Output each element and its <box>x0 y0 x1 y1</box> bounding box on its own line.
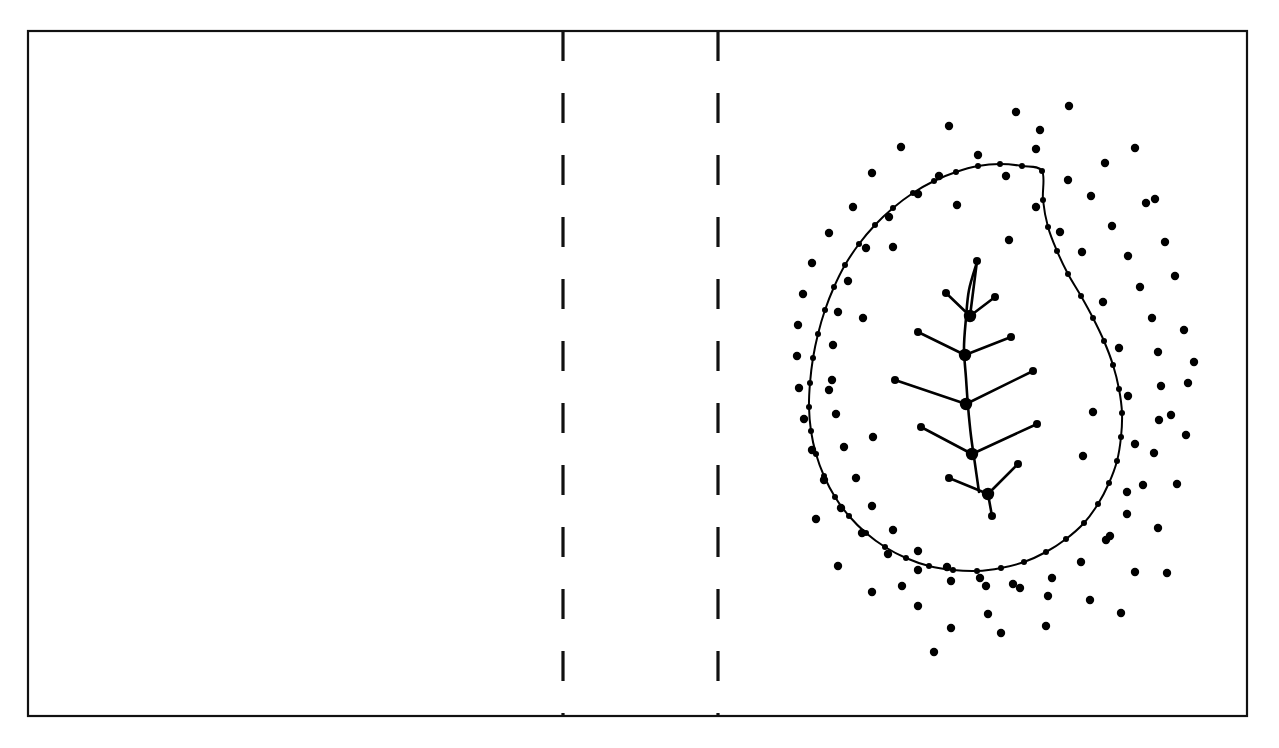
exterior-sample-point-83 <box>997 629 1005 637</box>
contour-sample-point-20 <box>832 494 838 500</box>
exterior-sample-point-62 <box>1077 558 1085 566</box>
exterior-sample-point-24 <box>799 290 807 298</box>
exterior-sample-point-99 <box>869 433 877 441</box>
exterior-sample-point-47 <box>1184 379 1192 387</box>
contour-sample-point-36 <box>1118 434 1124 440</box>
exterior-sample-point-12 <box>849 203 857 211</box>
contour-sample-point-10 <box>842 262 848 268</box>
exterior-sample-point-55 <box>1182 431 1190 439</box>
exterior-sample-point-59 <box>1131 440 1139 448</box>
exterior-sample-point-53 <box>868 502 876 510</box>
skeleton-tip-node-8 <box>1033 420 1041 428</box>
contour-sample-point-16 <box>806 404 812 410</box>
contour-sample-point-38 <box>1116 386 1122 392</box>
skeleton-tip-node-4 <box>1007 333 1015 341</box>
exterior-sample-point-71 <box>1154 524 1162 532</box>
contour-sample-point-9 <box>856 241 862 247</box>
skeleton-major-node-n4 <box>966 448 978 460</box>
contour-sample-point-19 <box>821 473 827 479</box>
exterior-sample-point-61 <box>914 547 922 555</box>
exterior-sample-point-75 <box>1106 532 1114 540</box>
contour-sample-point-25 <box>926 563 932 569</box>
exterior-sample-point-89 <box>1151 195 1159 203</box>
contour-sample-point-13 <box>815 331 821 337</box>
contour-sample-point-1 <box>1019 163 1025 169</box>
exterior-sample-point-19 <box>1032 203 1040 211</box>
exterior-sample-point-54 <box>1123 510 1131 518</box>
contour-sample-point-15 <box>807 380 813 386</box>
contour-sample-point-8 <box>872 222 878 228</box>
exterior-sample-point-66 <box>1048 574 1056 582</box>
exterior-sample-point-35 <box>1099 298 1107 306</box>
contour-sample-point-34 <box>1106 480 1112 486</box>
exterior-sample-point-100 <box>859 314 867 322</box>
figure-background <box>0 0 1279 748</box>
contour-sample-point-17 <box>808 428 814 434</box>
contour-sample-point-11 <box>831 284 837 290</box>
contour-sample-point-37 <box>1119 410 1125 416</box>
exterior-sample-point-1 <box>1065 102 1073 110</box>
exterior-sample-point-41 <box>832 410 840 418</box>
contour-sample-point-41 <box>1090 315 1096 321</box>
exterior-sample-point-30 <box>1148 314 1156 322</box>
exterior-sample-point-27 <box>1078 248 1086 256</box>
contour-sample-point-44 <box>1054 248 1060 254</box>
contour-sample-point-27 <box>974 568 980 574</box>
exterior-sample-point-39 <box>1180 326 1188 334</box>
exterior-sample-point-94 <box>825 386 833 394</box>
exterior-sample-point-2 <box>945 122 953 130</box>
leaf-figure-svg <box>0 0 1279 748</box>
contour-sample-point-28 <box>998 565 1004 571</box>
skeleton-tip-node-6 <box>1029 367 1037 375</box>
exterior-sample-point-4 <box>1131 144 1139 152</box>
exterior-sample-point-32 <box>793 352 801 360</box>
contour-sample-point-31 <box>1063 536 1069 542</box>
contour-sample-point-18 <box>813 451 819 457</box>
contour-sample-point-30 <box>1043 549 1049 555</box>
exterior-sample-point-49 <box>852 474 860 482</box>
contour-sample-point-32 <box>1081 520 1087 526</box>
exterior-sample-point-26 <box>1136 283 1144 291</box>
exterior-sample-point-23 <box>1161 238 1169 246</box>
exterior-sample-point-79 <box>1131 568 1139 576</box>
figure-root: Leaf shape with medial-axis skeleton and… <box>0 0 1279 748</box>
exterior-sample-point-22 <box>1124 252 1132 260</box>
skeleton-tip-node-5 <box>891 376 899 384</box>
exterior-sample-point-6 <box>974 151 982 159</box>
exterior-sample-point-88 <box>1190 358 1198 366</box>
contour-sample-point-33 <box>1095 501 1101 507</box>
contour-sample-point-43 <box>1065 271 1071 277</box>
exterior-sample-point-77 <box>868 588 876 596</box>
exterior-sample-point-28 <box>794 321 802 329</box>
exterior-sample-point-10 <box>1002 172 1010 180</box>
exterior-sample-point-21 <box>862 244 870 252</box>
exterior-sample-point-0 <box>1012 108 1020 116</box>
exterior-sample-point-16 <box>825 229 833 237</box>
contour-sample-point-40 <box>1101 338 1107 344</box>
exterior-sample-point-95 <box>1079 452 1087 460</box>
exterior-sample-point-43 <box>1115 344 1123 352</box>
skeleton-tip-node-9 <box>945 474 953 482</box>
skeleton-major-node-n3 <box>960 398 972 410</box>
skeleton-tip-node-1 <box>991 293 999 301</box>
exterior-sample-point-5 <box>1032 145 1040 153</box>
exterior-sample-point-33 <box>829 341 837 349</box>
skeleton-major-node-n1 <box>964 310 976 322</box>
exterior-sample-point-57 <box>889 526 897 534</box>
skeleton-tip-node-10 <box>1014 460 1022 468</box>
contour-sample-point-46 <box>1040 197 1046 203</box>
contour-sample-point-6 <box>910 190 916 196</box>
exterior-sample-point-90 <box>1036 126 1044 134</box>
exterior-sample-point-45 <box>840 443 848 451</box>
exterior-sample-point-7 <box>1101 159 1109 167</box>
contour-sample-point-3 <box>975 163 981 169</box>
exterior-sample-point-74 <box>984 610 992 618</box>
exterior-sample-point-64 <box>914 566 922 574</box>
exterior-sample-point-76 <box>914 602 922 610</box>
skeleton-tip-node-3 <box>914 328 922 336</box>
exterior-sample-point-40 <box>800 415 808 423</box>
exterior-sample-point-46 <box>1150 449 1158 457</box>
exterior-sample-point-36 <box>795 384 803 392</box>
skeleton-tip-node-0 <box>942 289 950 297</box>
exterior-sample-point-63 <box>1173 480 1181 488</box>
